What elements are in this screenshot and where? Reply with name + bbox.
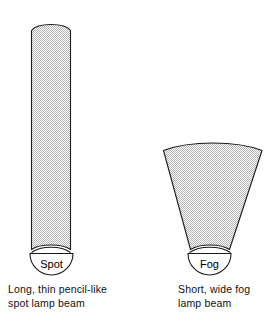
fog-caption-line-2: lamp beam xyxy=(178,297,250,311)
spot-beam-group: Spot xyxy=(30,25,73,276)
beam-diagram-svg: Spot Fog xyxy=(0,0,275,324)
spot-beam-shape xyxy=(32,25,71,250)
spot-caption: Long, thin pencil-like spot lamp beam xyxy=(8,283,107,310)
spot-lens-arc xyxy=(32,247,71,252)
spot-caption-line-2: spot lamp beam xyxy=(8,297,107,311)
lamp-beam-figure: Spot Fog Long, thin pencil-like spot lam… xyxy=(0,0,275,324)
fog-lamp-label: Fog xyxy=(200,258,219,270)
fog-beam-shape xyxy=(164,143,263,250)
fog-lens-arc xyxy=(190,247,231,252)
fog-beam-group: Fog xyxy=(164,143,263,275)
fog-caption-line-1: Short, wide fog xyxy=(178,283,250,297)
fog-caption: Short, wide fog lamp beam xyxy=(178,283,250,310)
spot-lamp-label: Spot xyxy=(40,258,63,270)
spot-caption-line-1: Long, thin pencil-like xyxy=(8,283,107,297)
